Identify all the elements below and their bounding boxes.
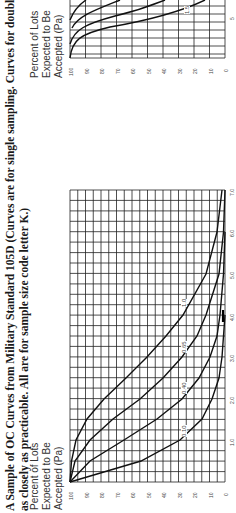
curve-label: 0.10: [181, 425, 187, 437]
x-tick: 6.0: [229, 230, 235, 237]
x-tick: 2.0: [229, 397, 235, 404]
y-tick: 80: [99, 68, 105, 74]
y-tick: 30: [177, 492, 183, 498]
upper-chart-grid: [70, 0, 225, 58]
y-tick: 50: [146, 68, 152, 74]
x-tick: 4.0: [229, 314, 235, 321]
curve-label: 0.65: [181, 341, 187, 353]
y-tick: 40: [161, 492, 167, 498]
y-tick: 70: [115, 492, 121, 498]
y-tick: 0: [223, 69, 229, 72]
y-tick: 20: [192, 68, 198, 74]
ylabel-line-1: Percent of Lots: [29, 10, 41, 78]
y-tick: 80: [99, 492, 105, 498]
upper-chart-ylabel: Percent of Lots Expected to Be Accepted …: [29, 10, 65, 78]
x-tick: 3.0: [229, 355, 235, 362]
upper-x-tick: 5: [229, 17, 235, 20]
y-tick: 10: [208, 68, 214, 74]
ylabel-line-2: Expected to Be: [41, 10, 53, 78]
y-tick: 90: [84, 492, 90, 498]
upper-curve-label: 1.5: [184, 6, 190, 14]
y-tick: 40: [161, 68, 167, 74]
x-tick: 1.0: [229, 439, 235, 446]
y-tick: 90: [84, 68, 90, 74]
title-line-1: A Sample of OC Curves from Military Stan…: [3, 0, 17, 511]
ylabel-line-1: Percent of Lots: [29, 442, 41, 510]
x-tick: 7.0: [229, 189, 235, 196]
y-tick: 60: [130, 492, 136, 498]
ylabel-line-2: Expected to Be: [41, 442, 53, 510]
y-tick: 30: [177, 68, 183, 74]
page-title: A Sample of OC Curves from Military Stan…: [3, 0, 31, 511]
y-tick: 0: [223, 493, 229, 496]
curve-label: 1.0: [181, 299, 187, 307]
y-tick: 100: [68, 68, 74, 76]
y-tick: 100: [68, 492, 74, 500]
y-tick: 60: [130, 68, 136, 74]
x-tick: 5.0: [229, 272, 235, 279]
y-tick: 20: [192, 492, 198, 498]
ylabel-line-3: Accepted (Pa): [53, 10, 65, 78]
y-tick: 10: [208, 492, 214, 498]
lower-chart-ylabel: Percent of Lots Expected to Be Accepted …: [29, 442, 65, 510]
ylabel-line-3: Accepted (Pa): [53, 442, 65, 510]
y-tick: 70: [115, 68, 121, 74]
curve-label: 0.40: [181, 382, 187, 394]
y-tick: 50: [146, 492, 152, 498]
lower-chart-grid: [70, 190, 225, 482]
